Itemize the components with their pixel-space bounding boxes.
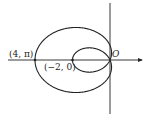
limacon-diagram: (4, π) (−2, 0) O (0, 0, 151, 123)
label-origin: O (112, 49, 120, 59)
point-neg2-0 (71, 59, 74, 62)
label-4-pi: (4, π) (9, 49, 33, 59)
label-neg2-0: (−2, 0) (44, 62, 76, 72)
point-4-pi (34, 59, 37, 62)
